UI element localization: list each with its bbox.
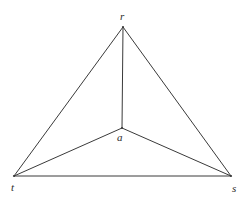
graph-figure: r a t s <box>0 0 252 205</box>
edge-a-r <box>122 27 123 128</box>
node-label-t: t <box>11 182 14 193</box>
vertex-dot-r <box>122 26 124 28</box>
edge-a-s <box>122 128 231 176</box>
edge-r-s <box>123 27 231 176</box>
edge-group <box>14 27 231 176</box>
vertex-dot-a <box>121 127 123 129</box>
node-label-r: r <box>120 11 124 22</box>
edge-r-t <box>14 27 123 176</box>
edge-a-t <box>14 128 122 176</box>
graph-canvas <box>0 0 252 205</box>
vertex-dot-s <box>230 175 232 177</box>
node-label-a: a <box>117 132 123 143</box>
vertex-dot-t <box>13 175 15 177</box>
node-label-s: s <box>232 183 236 194</box>
